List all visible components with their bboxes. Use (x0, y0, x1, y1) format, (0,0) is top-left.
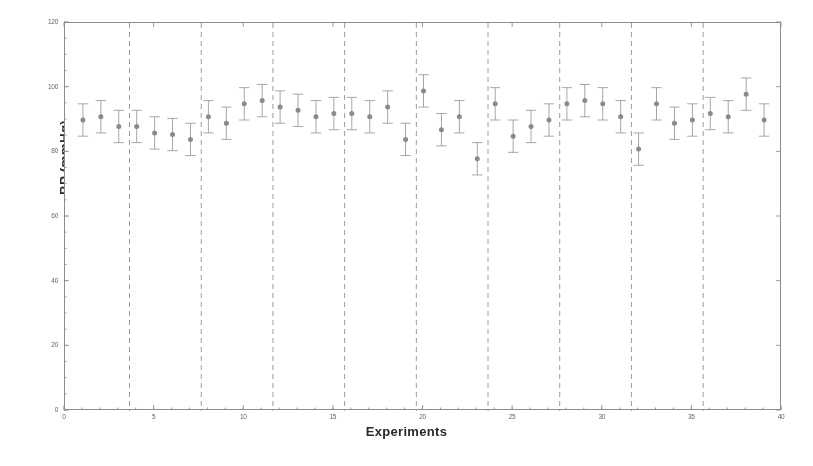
data-marker (206, 114, 211, 119)
errorbar-point (132, 110, 142, 142)
errorbar-point (400, 123, 410, 155)
data-marker (331, 111, 336, 116)
x-tick-label: 20 (410, 413, 436, 420)
errorbar-point (221, 107, 231, 139)
errorbar-point (651, 88, 661, 120)
data-marker (403, 137, 408, 142)
errorbar-point (669, 107, 679, 139)
data-marker (367, 114, 372, 119)
errorbar-point (759, 104, 769, 136)
group-divider-lines (130, 23, 704, 411)
errorbar-point (347, 97, 357, 129)
errorbar-point (454, 101, 464, 133)
x-tick-label: 30 (589, 413, 615, 420)
plot-area (64, 22, 781, 410)
data-marker (726, 114, 731, 119)
data-marker (708, 111, 713, 116)
x-axis-title: Experiments (0, 424, 813, 439)
data-marker (564, 101, 569, 106)
errorbar-point (114, 110, 124, 142)
errorbar-point (275, 91, 285, 123)
data-marker (672, 121, 677, 126)
errorbar-point (239, 88, 249, 120)
errorbar-point (508, 120, 518, 152)
errorbar-point (382, 91, 392, 123)
x-tick-label: 25 (499, 413, 525, 420)
errorbar-point (687, 104, 697, 136)
data-marker (600, 101, 605, 106)
data-marker (654, 101, 659, 106)
errorbar-point (293, 94, 303, 126)
errorbar-point (185, 123, 195, 155)
data-marker (296, 108, 301, 113)
x-tick-label: 0 (51, 413, 77, 420)
x-tick-label: 40 (768, 413, 794, 420)
data-marker (313, 114, 318, 119)
data-marker (170, 132, 175, 137)
errorbar-point (490, 88, 500, 120)
data-marker (618, 114, 623, 119)
data-series-errorbars (78, 75, 770, 175)
data-marker (421, 88, 426, 93)
y-tick-label: 60 (32, 212, 58, 219)
y-tick-label: 40 (32, 277, 58, 284)
data-marker (529, 124, 534, 129)
data-marker (278, 105, 283, 110)
data-marker (385, 105, 390, 110)
data-marker (744, 92, 749, 97)
data-marker (260, 98, 265, 103)
errorbar-point (311, 101, 321, 133)
y-tick-label: 0 (32, 406, 58, 413)
data-marker (457, 114, 462, 119)
data-marker (546, 118, 551, 123)
errorbar-point (562, 88, 572, 120)
y-tick-label: 20 (32, 341, 58, 348)
errorbar-point (615, 101, 625, 133)
data-marker (511, 134, 516, 139)
errorbar-point (167, 118, 177, 150)
y-tick-label: 80 (32, 147, 58, 154)
data-marker (439, 127, 444, 132)
errorbar-point (598, 88, 608, 120)
errorbar-point (329, 97, 339, 129)
errorbar-point (436, 114, 446, 146)
data-marker (690, 118, 695, 123)
data-marker (582, 98, 587, 103)
errorbar-point (96, 101, 106, 133)
data-marker (80, 118, 85, 123)
errorbar-point (526, 110, 536, 142)
errorbar-point (633, 133, 643, 165)
y-tick-label: 120 (32, 18, 58, 25)
data-marker (493, 101, 498, 106)
data-marker (475, 156, 480, 161)
errorbar-point (78, 104, 88, 136)
x-tick-label: 15 (320, 413, 346, 420)
data-marker (636, 147, 641, 152)
chart-figure: BP (mmHg) Experiments 020406080100120 05… (0, 0, 813, 466)
errorbar-point (365, 101, 375, 133)
data-marker (349, 111, 354, 116)
errorbar-point (149, 117, 159, 149)
data-marker (762, 118, 767, 123)
errorbar-point (544, 104, 554, 136)
x-tick-label: 35 (678, 413, 704, 420)
data-marker (152, 130, 157, 135)
errorbar-point (257, 84, 267, 116)
data-marker (188, 137, 193, 142)
x-tick-label: 5 (141, 413, 167, 420)
data-marker (98, 114, 103, 119)
data-marker (242, 101, 247, 106)
y-tick-label: 100 (32, 83, 58, 90)
data-marker (224, 121, 229, 126)
data-marker (116, 124, 121, 129)
x-tick-label: 10 (230, 413, 256, 420)
errorbar-point (418, 75, 428, 107)
errorbar-point (705, 97, 715, 129)
errorbar-point (741, 78, 751, 110)
data-marker (134, 124, 139, 129)
errorbar-point (580, 84, 590, 116)
plot-canvas (65, 23, 782, 411)
errorbar-point (723, 101, 733, 133)
errorbar-point (472, 143, 482, 175)
errorbar-point (203, 101, 213, 133)
